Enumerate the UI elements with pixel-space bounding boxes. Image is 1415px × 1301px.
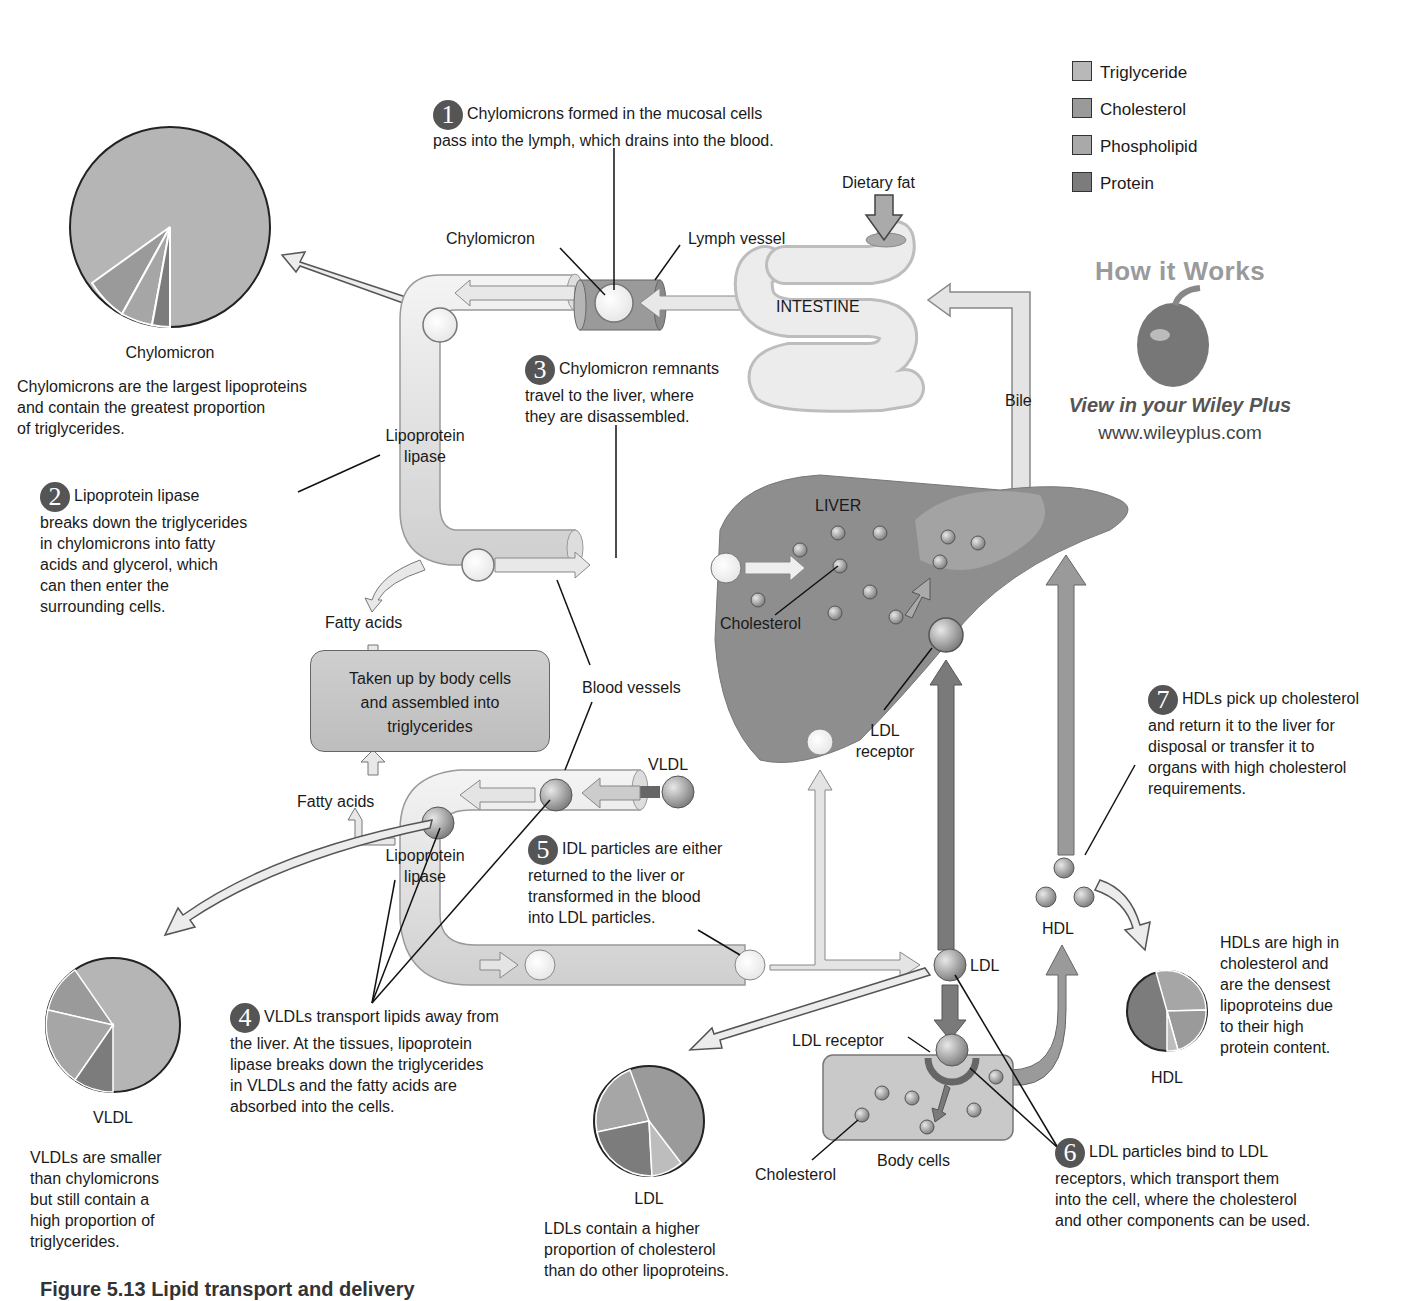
step-4-callout: 4VLDLs transport lipids away from the li… <box>230 1003 540 1117</box>
lymph-vessel <box>574 280 745 330</box>
legend-item-protein: Protein <box>1072 172 1154 194</box>
how-it-works-title: How it Works <box>1060 256 1300 287</box>
pepper-icon <box>1137 288 1209 387</box>
step-5-callout: 5IDL particles are either returned to th… <box>528 835 768 928</box>
chylomicron-label: Chylomicron <box>446 228 535 249</box>
step-7-badge: 7 <box>1148 685 1178 715</box>
liver-ldl-receptor-label: LDL receptor <box>845 720 925 762</box>
step-6-badge: 6 <box>1055 1138 1085 1168</box>
step-5-badge: 5 <box>528 835 558 865</box>
body-cells-label: Body cells <box>877 1150 950 1171</box>
chylomicron-pie-title: Chylomicron <box>70 342 270 363</box>
step-2-badge: 2 <box>40 482 70 512</box>
fatty-acids-label-top: Fatty acids <box>325 612 402 633</box>
lymph-vessel-label: Lymph vessel <box>688 228 785 249</box>
lipoprotein-lipase-label-bottom: Lipoprotein lipase <box>370 845 480 887</box>
dietary-fat-label: Dietary fat <box>842 172 915 193</box>
step-3-callout: 3Chylomicron remnants travel to the live… <box>525 355 745 427</box>
figure-caption: Figure 5.13 Lipid transport and delivery <box>40 1278 415 1301</box>
lipoprotein-lipase-label-top: Lipoprotein lipase <box>370 425 480 467</box>
fatty-acids-label-bottom: Fatty acids <box>297 791 374 812</box>
hdl-pie-title: HDL <box>1117 1067 1217 1088</box>
step-2-callout: 2Lipoprotein lipase breaks down the trig… <box>40 482 310 617</box>
vldl-pie-chart <box>46 958 180 1092</box>
protein-swatch-icon <box>1072 172 1092 192</box>
legend-item-cholesterol: Cholesterol <box>1072 98 1186 120</box>
bile-label: Bile <box>1005 390 1032 411</box>
intestine-label: INTESTINE <box>776 296 860 317</box>
hdl-pie-description: HDLs are high in cholesterol and are the… <box>1220 932 1380 1058</box>
step-3-badge: 3 <box>525 355 555 385</box>
hdl-label: HDL <box>1042 918 1074 939</box>
legend-item-triglyceride: Triglyceride <box>1072 61 1187 83</box>
ldl-label: LDL <box>970 955 999 976</box>
body-cells-illustration <box>812 1034 1013 1160</box>
phospholipid-swatch-icon <box>1072 135 1092 155</box>
wiley-plus-url[interactable]: www.wileyplus.com <box>1060 422 1300 444</box>
vldl-label: VLDL <box>648 754 688 775</box>
ldl-pie-chart <box>594 1066 704 1176</box>
step-4-badge: 4 <box>230 1003 260 1033</box>
blood-vessels-label: Blood vessels <box>582 677 681 698</box>
step-6-callout: 6LDL particles bind to LDL receptors, wh… <box>1055 1138 1355 1231</box>
ldl-pie-description: LDLs contain a higher proportion of chol… <box>544 1218 784 1281</box>
body-cells-triglyceride-box: Taken up by body cells and assembled int… <box>310 650 550 752</box>
step-1-callout: 1Chylomicrons formed in the mucosal cell… <box>433 100 853 151</box>
hdl-pie-chart <box>1127 971 1207 1051</box>
cell-cholesterol-label: Cholesterol <box>755 1164 836 1185</box>
cholesterol-swatch-icon <box>1072 98 1092 118</box>
step-7-callout: 7HDLs pick up cholesterol and return it … <box>1148 685 1408 799</box>
vldl-pie-title: VLDL <box>63 1107 163 1128</box>
wiley-plus-link[interactable]: View in your Wiley Plus <box>1060 394 1300 417</box>
liver-cholesterol-label: Cholesterol <box>720 613 801 634</box>
liver-label: LIVER <box>815 495 861 516</box>
triglyceride-swatch-icon <box>1072 61 1092 81</box>
legend-item-phospholipid: Phospholipid <box>1072 135 1197 157</box>
chylomicron-pie-description: Chylomicrons are the largest lipoprotein… <box>17 376 377 439</box>
chylomicron-pie-chart <box>70 127 270 327</box>
cell-ldl-receptor-label: LDL receptor <box>792 1030 884 1051</box>
ldl-pie-title: LDL <box>599 1188 699 1209</box>
step-1-badge: 1 <box>433 100 463 130</box>
vldl-pie-description: VLDLs are smaller than chylomicrons but … <box>30 1147 210 1252</box>
